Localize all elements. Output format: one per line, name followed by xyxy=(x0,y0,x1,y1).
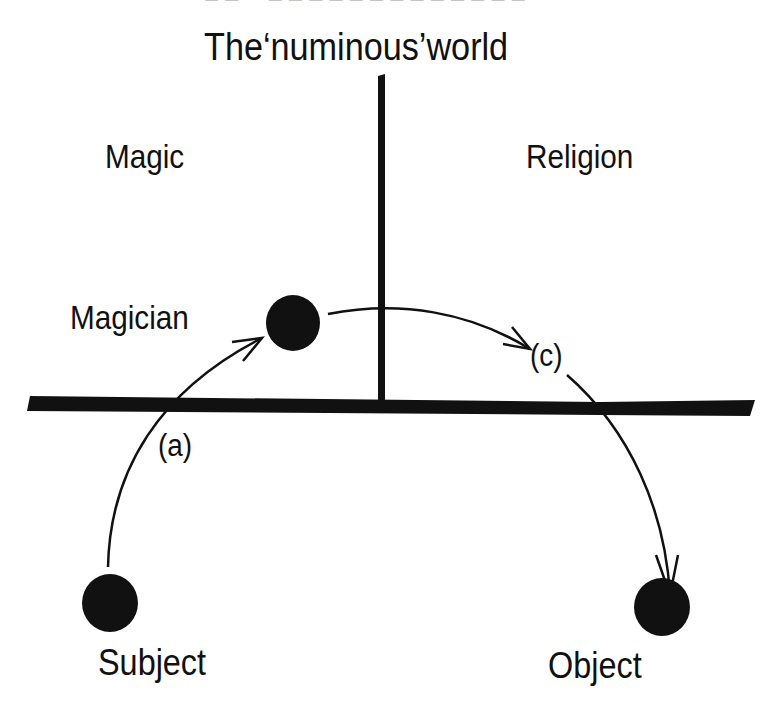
diagram-title: The‘numinous’world xyxy=(204,28,508,66)
region-label-religion: Religion xyxy=(526,140,633,173)
subject-label: Subject xyxy=(98,645,206,681)
magician-label: Magician xyxy=(70,301,189,334)
arrow-c-head xyxy=(503,327,530,349)
object-label: Object xyxy=(548,648,642,684)
arrow-c-path-upper xyxy=(328,308,530,349)
magic-religion-diagram xyxy=(0,0,777,708)
subject-node xyxy=(82,574,138,632)
horizontal-axis xyxy=(27,396,755,416)
magician-node xyxy=(266,295,320,351)
region-label-magic: Magic xyxy=(105,140,184,173)
vertical-axis xyxy=(378,74,385,410)
object-node xyxy=(634,578,690,636)
arrow-a-label: (a) xyxy=(158,430,192,461)
arrow-c-label: (c) xyxy=(530,340,563,371)
